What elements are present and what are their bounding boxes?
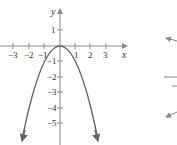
x-tick-label: 3	[103, 50, 108, 60]
y-tick-label: −1	[47, 56, 57, 66]
x-tick-label: −3	[8, 50, 18, 60]
partial-arrow-top	[166, 38, 177, 41]
graph-canvas: −3 −2 −1 1 2 3 x 1 −1 −2 −3 −4 −5 y	[0, 0, 177, 145]
partial-arrow-bottom	[166, 112, 177, 117]
y-tick-label: 1	[51, 25, 56, 35]
y-axis-label: y	[50, 6, 56, 17]
x-tick-label: −2	[24, 50, 34, 60]
y-tick-label: −2	[47, 72, 57, 82]
x-tick-label: 1	[74, 50, 79, 60]
y-tick-label: −4	[47, 103, 57, 113]
x-axis-label: x	[121, 49, 127, 60]
y-tick-label: −3	[47, 87, 57, 97]
y-tick-label: −5	[47, 118, 57, 128]
x-tick-label: 2	[88, 50, 93, 60]
